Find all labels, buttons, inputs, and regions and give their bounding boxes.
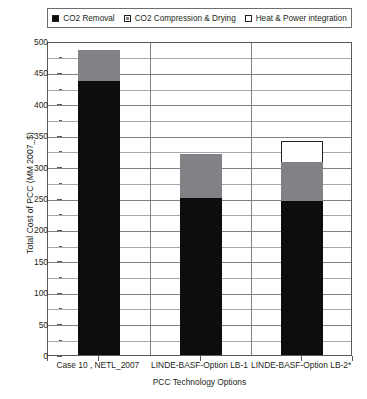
y-tick-minor (59, 120, 62, 121)
y-tick-minor (59, 214, 62, 215)
y-tick-major (57, 136, 62, 137)
y-tick-label: 400 (8, 100, 48, 110)
chart-legend: CO2 Removal CO2 Compression & Drying Hea… (47, 8, 352, 28)
category-divider (150, 43, 151, 355)
bar-segment-co2-removal[interactable] (281, 201, 323, 355)
bar-segment-co2-compression-drying[interactable] (281, 162, 323, 202)
y-tick-label: 250 (8, 194, 48, 204)
y-tick-major (57, 261, 62, 262)
bar-segment-co2-removal[interactable] (78, 81, 120, 355)
x-axis-title: PCC Technology Options (47, 377, 352, 387)
y-tick-minor (59, 183, 62, 184)
y-tick-major (57, 356, 62, 357)
y-tick-minor (59, 57, 62, 58)
x-tick-label: LINDE-BASF-Option LB-2* (241, 360, 361, 370)
legend-item-co2-removal: CO2 Removal (52, 14, 114, 23)
y-tick-minor (59, 277, 62, 278)
bar-segment-co2-removal[interactable] (180, 198, 222, 355)
y-tick-minor (59, 89, 62, 90)
black-square-icon (52, 15, 59, 22)
y-tick-label: 150 (8, 257, 48, 267)
y-tick-major (57, 230, 62, 231)
y-tick-minor (59, 151, 62, 152)
y-tick-major (57, 42, 62, 43)
y-tick-label: 350 (8, 131, 48, 141)
legend-label: CO2 Compression & Drying (135, 14, 236, 23)
category-divider (251, 43, 252, 355)
plot-area (47, 42, 352, 356)
bar-group[interactable] (180, 154, 222, 355)
y-tick-major (57, 199, 62, 200)
y-tick-label: 300 (8, 163, 48, 173)
y-tick-minor (59, 340, 62, 341)
y-tick-major (57, 293, 62, 294)
y-tick-minor (59, 308, 62, 309)
y-tick-label: 500 (8, 37, 48, 47)
white-square-icon (245, 15, 252, 22)
legend-item-co2-compression-drying: CO2 Compression & Drying (124, 14, 236, 23)
bar-segment-heat-power-integration[interactable] (281, 141, 323, 161)
x-axis-end-tick (47, 356, 48, 361)
bar-group[interactable] (281, 141, 323, 355)
legend-label: CO2 Removal (63, 14, 114, 23)
y-tick-major (57, 73, 62, 74)
gray-square-icon (124, 15, 131, 22)
legend-item-heat-power-integration: Heat & Power integration (245, 14, 347, 23)
y-tick-label: 100 (8, 288, 48, 298)
y-tick-minor (59, 246, 62, 247)
bar-segment-co2-compression-drying[interactable] (180, 154, 222, 198)
y-tick-label: 200 (8, 225, 48, 235)
y-tick-label: 450 (8, 68, 48, 78)
y-tick-major (57, 104, 62, 105)
x-axis-end-tick (352, 356, 353, 361)
y-tick-label: 50 (8, 320, 48, 330)
bar-group[interactable] (78, 50, 120, 355)
y-tick-major (57, 324, 62, 325)
y-tick-major (57, 167, 62, 168)
legend-label: Heat & Power integration (256, 14, 347, 23)
bar-segment-co2-compression-drying[interactable] (78, 50, 120, 80)
